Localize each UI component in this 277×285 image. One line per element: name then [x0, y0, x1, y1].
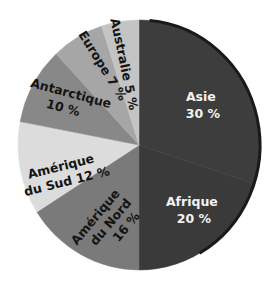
pie-chart: Asie 30 % Afrique 20 % Amérique du Nord …: [0, 0, 277, 285]
